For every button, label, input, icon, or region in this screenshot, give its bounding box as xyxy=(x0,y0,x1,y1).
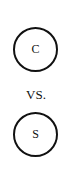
node-label-c: C xyxy=(31,42,39,57)
node-circle-c: C xyxy=(13,27,58,72)
node-label-s: S xyxy=(32,127,39,142)
versus-label: VS. xyxy=(0,87,72,103)
node-circle-s: S xyxy=(13,112,58,157)
